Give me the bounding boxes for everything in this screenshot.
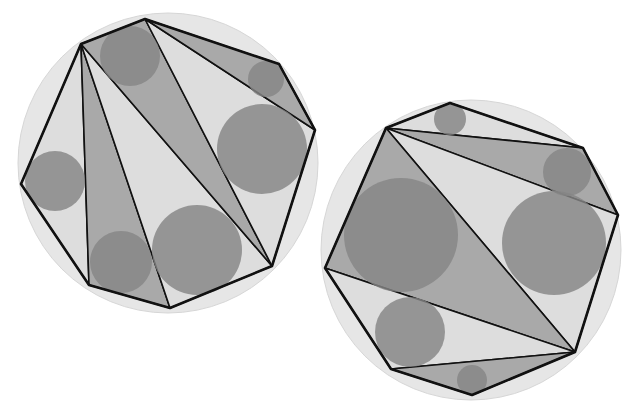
right-octagon-figure — [321, 100, 621, 400]
incircle — [217, 104, 307, 194]
triangulated-octagons-diagram — [0, 0, 639, 406]
incircle — [152, 205, 242, 295]
left-octagon-figure — [18, 13, 318, 313]
incircle — [248, 61, 284, 97]
diagram-canvas — [0, 0, 639, 406]
incircle — [543, 148, 591, 196]
incircle — [502, 191, 606, 295]
incircle — [100, 26, 160, 86]
incircle — [90, 231, 152, 293]
incircle — [375, 297, 445, 367]
incircle — [344, 178, 458, 292]
